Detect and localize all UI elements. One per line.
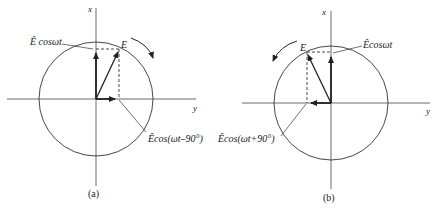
rotation-arrow-counterclockwise-icon: [273, 41, 297, 61]
phasor-e-arrow-b: [308, 55, 331, 103]
axis-y-label-a: y: [192, 103, 197, 113]
phasor-label-a: E: [120, 39, 127, 50]
leader-line-horizontal-b: [281, 104, 306, 136]
axis-y-label-b: y: [425, 106, 430, 116]
horizontal-component-label-b: Êcos(ωt+90°): [217, 133, 275, 145]
phasor-e-arrow-a: [96, 52, 118, 99]
axis-x-label-b: x: [321, 7, 326, 17]
polarization-diagrams: x y E Ê cosωt Êcos(ωt–90°) (a) x y E Êco…: [0, 0, 434, 208]
leader-line-horizontal-a: [119, 100, 146, 132]
diagram-b: x y E Êcosωt Êcos(ωt+90°) (b): [217, 7, 430, 204]
horizontal-component-label-a: Êcos(ωt–90°): [147, 133, 204, 145]
leader-line-vertical-b: [333, 46, 362, 53]
phasor-label-b: E: [299, 42, 306, 53]
vertical-component-label-b: Êcosωt: [362, 39, 392, 50]
caption-b: (b): [323, 192, 335, 204]
caption-a: (a): [88, 188, 99, 200]
diagram-a: x y E Ê cosωt Êcos(ωt–90°) (a): [7, 4, 204, 200]
rotation-arrow-clockwise-icon: [131, 38, 153, 58]
vertical-component-label-a: Ê cosωt: [29, 36, 62, 47]
axis-x-label-a: x: [87, 4, 92, 14]
